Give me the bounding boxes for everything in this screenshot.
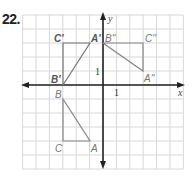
label-b-double-prime: B'' (105, 33, 117, 44)
label-b: B (55, 89, 62, 100)
y-axis-down-arrow-icon (100, 161, 106, 169)
label-c-double-prime: C'' (145, 33, 157, 44)
coordinate-plane: y x 1 1 C' A' B' B'' C'' A'' B C A (0, 0, 193, 179)
label-a: A (90, 143, 98, 154)
label-c-prime: C' (54, 33, 64, 44)
label-c: C (55, 143, 63, 154)
y-axis-label: y (107, 13, 113, 24)
y-axis-up-arrow-icon (100, 12, 106, 20)
label-a-prime: A' (90, 33, 101, 44)
label-b-prime: B' (51, 74, 61, 85)
x-axis-label: x (177, 87, 183, 98)
label-a-double-prime: A'' (143, 73, 156, 84)
y-tick-label: 1 (95, 66, 100, 77)
x-tick-label: 1 (114, 87, 119, 98)
